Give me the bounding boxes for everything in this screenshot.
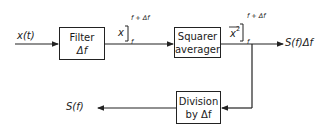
output-label: S(f)Δf bbox=[285, 37, 313, 48]
filter-block: Filter Δf bbox=[59, 27, 105, 60]
division-block: Division by Δf bbox=[176, 91, 221, 124]
filter-bandwidth: Δf bbox=[77, 44, 87, 57]
input-label: x(t) bbox=[17, 30, 35, 41]
filter-output-lower-limit: f bbox=[131, 38, 133, 46]
squarer-title: Squarer bbox=[178, 30, 217, 43]
squarer-output-exponent: 2 bbox=[236, 25, 240, 33]
filter-output-upper-limit: f + Δf bbox=[131, 14, 150, 22]
division-by-label: by Δf bbox=[186, 108, 212, 121]
filter-title: Filter bbox=[70, 31, 95, 44]
filter-output-var: x bbox=[118, 27, 124, 38]
division-title: Division bbox=[179, 95, 219, 108]
averager-title: averager bbox=[175, 43, 220, 56]
squarer-averager-block: Squarer averager bbox=[174, 27, 221, 58]
connector-lines bbox=[0, 0, 334, 131]
squarer-output-upper-limit: f + Δf bbox=[247, 12, 266, 20]
squarer-output-lower-limit: f bbox=[247, 38, 249, 46]
final-output-label: S(f) bbox=[66, 101, 84, 112]
